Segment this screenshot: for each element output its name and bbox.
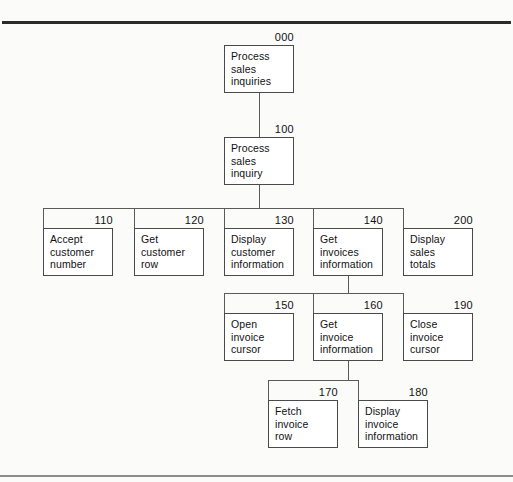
module-label: Process sales inquiry [231, 142, 293, 180]
structure-chart: Process sales inquiries000Process sales … [0, 0, 513, 482]
connector-line [259, 185, 260, 208]
module-number-140: 140 [355, 214, 383, 226]
connector-line [313, 208, 314, 228]
module-number-170: 170 [310, 386, 338, 398]
module-number-110: 110 [85, 214, 113, 226]
module-box-140[interactable]: Get invoices information [313, 228, 383, 276]
connector-line [224, 208, 225, 228]
connector-line [43, 208, 44, 228]
module-label: Process sales inquiries [231, 50, 293, 88]
connector-line [134, 208, 135, 228]
module-label: Open invoice cursor [231, 318, 293, 356]
module-label: Get invoice information [320, 318, 382, 356]
module-number-150: 150 [266, 299, 294, 311]
module-label: Display customer information [231, 233, 293, 271]
module-number-100: 100 [266, 123, 294, 135]
module-label: Accept customer number [50, 233, 112, 271]
module-box-130[interactable]: Display customer information [224, 228, 294, 276]
module-box-150[interactable]: Open invoice cursor [224, 313, 294, 361]
connector-line [403, 293, 404, 313]
connector-line [224, 293, 225, 313]
connector-line [313, 293, 314, 313]
connector-line [403, 208, 404, 228]
module-number-130: 130 [266, 214, 294, 226]
module-number-190: 190 [445, 299, 473, 311]
connector-line [268, 380, 358, 381]
module-box-120[interactable]: Get customer row [134, 228, 204, 276]
module-box-100[interactable]: Process sales inquiry [224, 137, 294, 185]
module-label: Fetch invoice row [275, 405, 337, 443]
structure-chart-page: Process sales inquiries000Process sales … [0, 0, 513, 482]
module-box-000[interactable]: Process sales inquiries [224, 45, 294, 93]
module-number-000: 000 [266, 31, 294, 43]
connector-line [358, 380, 359, 400]
connector-line [259, 93, 260, 137]
connector-line [43, 208, 403, 209]
module-number-120: 120 [176, 214, 204, 226]
module-label: Close invoice cursor [410, 318, 472, 356]
module-number-180: 180 [400, 386, 428, 398]
connector-line [268, 380, 269, 400]
module-label: Display invoice information [365, 405, 427, 443]
module-label: Display sales totals [410, 233, 472, 271]
module-number-160: 160 [355, 299, 383, 311]
module-number-200: 200 [445, 214, 473, 226]
module-box-170[interactable]: Fetch invoice row [268, 400, 338, 448]
connector-line [348, 276, 349, 293]
connector-line [348, 361, 349, 380]
module-label: Get customer row [141, 233, 203, 271]
module-label: Get invoices information [320, 233, 382, 271]
module-box-160[interactable]: Get invoice information [313, 313, 383, 361]
module-box-180[interactable]: Display invoice information [358, 400, 428, 448]
module-box-190[interactable]: Close invoice cursor [403, 313, 473, 361]
module-box-110[interactable]: Accept customer number [43, 228, 113, 276]
module-box-200[interactable]: Display sales totals [403, 228, 473, 276]
